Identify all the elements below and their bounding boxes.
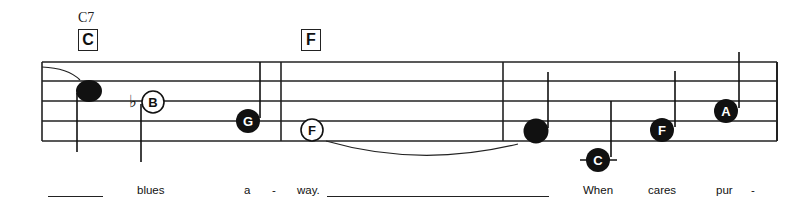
lyric-word: blues (137, 184, 165, 196)
svg-text:F: F (658, 123, 666, 138)
lyric-word: a (244, 184, 250, 196)
lyric-word: cares (648, 184, 676, 196)
note-g: G (236, 62, 260, 133)
lyric-word: pur (716, 184, 733, 196)
tie-arc (326, 141, 518, 155)
tie-arc (42, 67, 80, 80)
note-filled (524, 72, 549, 144)
chord-box-f: F (301, 29, 321, 51)
lyric-extender (327, 196, 549, 197)
chord-name-c7: C7 (78, 10, 94, 26)
note-a: A (714, 52, 739, 123)
svg-text:C: C (593, 153, 603, 168)
svg-text:B: B (148, 95, 157, 110)
lyric-extender (48, 196, 103, 197)
flat-icon: ♭ (129, 91, 137, 111)
lyric-hyphen: - (751, 184, 755, 196)
music-staff: ♭ B G F C F A (0, 0, 810, 205)
lyric-word: way. (297, 184, 320, 196)
chord-box-c: C (78, 29, 98, 51)
lyric-word: When (583, 184, 613, 196)
svg-text:G: G (243, 114, 253, 129)
svg-text:A: A (721, 104, 731, 119)
note-c: C (580, 101, 617, 172)
svg-text:F: F (308, 123, 316, 138)
note-b-flat: ♭ B (129, 91, 164, 162)
lyric-hyphen: - (272, 184, 276, 196)
note-f-open: F (301, 119, 323, 141)
